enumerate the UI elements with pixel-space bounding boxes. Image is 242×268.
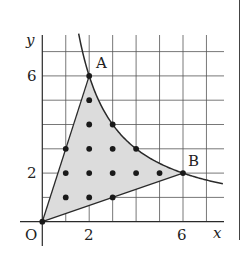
lattice-point (133, 146, 139, 152)
origin-label: O (25, 226, 37, 244)
lattice-point (133, 170, 139, 176)
coordinate-diagram: y x O 2 6 2 6 A B (0, 0, 242, 268)
lattice-point (110, 122, 116, 128)
lattice-point (180, 170, 186, 176)
lattice-point (157, 170, 163, 176)
lattice-point (110, 170, 116, 176)
lattice-point (63, 146, 69, 152)
lattice-point (110, 195, 116, 201)
point-label-a: A (95, 54, 107, 72)
lattice-point (39, 219, 45, 225)
point-label-b: B (188, 152, 199, 170)
lattice-point (110, 146, 116, 152)
lattice-point (86, 195, 92, 201)
x-axis-label: x (213, 224, 222, 242)
x-tick-label-2: 2 (84, 226, 94, 244)
y-axis-label: y (25, 31, 35, 49)
lattice-point (86, 97, 92, 103)
x-tick-label-6: 6 (177, 226, 187, 244)
lattice-point (86, 122, 92, 128)
page-edge-line (239, 0, 240, 240)
y-tick-label-6: 6 (27, 67, 37, 85)
lattice-point (86, 73, 92, 79)
lattice-point (63, 195, 69, 201)
y-tick-label-2: 2 (27, 164, 37, 182)
lattice-point (86, 170, 92, 176)
lattice-point (86, 146, 92, 152)
lattice-point (63, 170, 69, 176)
